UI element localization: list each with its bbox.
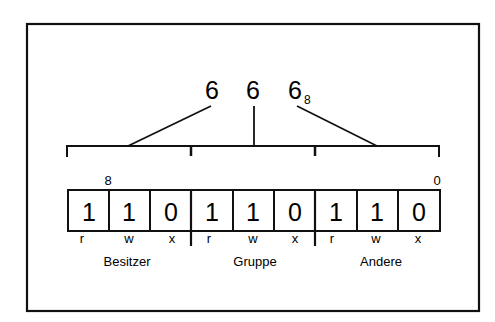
perm-letter: x xyxy=(169,231,176,246)
octal-digit-other: 6 xyxy=(288,76,302,104)
permission-diagram: 6 6 6 8 8 0 1 1 0 1 1 0 1 1 0 xyxy=(0,0,495,322)
group-label-group: Gruppe xyxy=(233,254,276,269)
bit-index-high: 8 xyxy=(104,173,111,188)
connector-other xyxy=(297,106,377,146)
group-label-other: Andere xyxy=(360,254,402,269)
perm-letter: w xyxy=(370,231,381,246)
perm-letter: w xyxy=(247,231,258,246)
bit-cell: 1 xyxy=(205,198,219,226)
bit-cell: 1 xyxy=(122,198,136,226)
perm-letter: x xyxy=(292,231,299,246)
perm-letter: r xyxy=(80,231,85,246)
perm-letters: r w x r w x r w x xyxy=(80,231,422,246)
perm-letter: w xyxy=(123,231,134,246)
octal-digit-owner: 6 xyxy=(205,76,219,104)
bit-cell: 1 xyxy=(82,198,96,226)
bit-cell: 0 xyxy=(164,198,178,226)
bit-cell: 1 xyxy=(370,198,384,226)
perm-letter: r xyxy=(330,231,335,246)
bit-cell: 0 xyxy=(288,198,302,226)
bit-values: 1 1 0 1 1 0 1 1 0 xyxy=(82,198,426,226)
connector-owner xyxy=(128,106,211,146)
bit-cell: 1 xyxy=(329,198,343,226)
perm-letter: x xyxy=(415,231,422,246)
group-bracket xyxy=(67,145,440,157)
bit-index-low: 0 xyxy=(433,173,440,188)
group-label-owner: Besitzer xyxy=(104,254,152,269)
octal-digit-group: 6 xyxy=(246,76,260,104)
bit-cell: 1 xyxy=(246,198,260,226)
octal-base-subscript: 8 xyxy=(304,93,311,107)
bit-cell: 0 xyxy=(412,198,426,226)
perm-letter: r xyxy=(207,231,212,246)
